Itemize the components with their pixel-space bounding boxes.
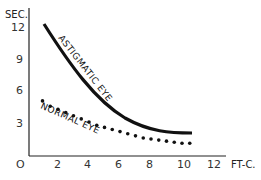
y-tick-9: 9 — [16, 53, 23, 66]
x-tick-12: 12 — [207, 158, 221, 171]
origin-label: O — [16, 158, 25, 171]
normal-eye-dot — [180, 141, 184, 145]
x-tick-6: 6 — [115, 158, 122, 171]
normal-eye-dot — [165, 139, 169, 143]
x-tick-10: 10 — [177, 158, 191, 171]
y-tick-3: 3 — [16, 117, 23, 130]
x-tick-2: 2 — [54, 158, 61, 171]
normal-eye-dot — [157, 138, 161, 142]
normal-eye-dot — [141, 136, 145, 140]
normal-eye-label: NORMAL EYE — [39, 101, 101, 136]
y-tick-6: 6 — [16, 84, 23, 97]
normal-eye-dots — [41, 99, 192, 145]
astigmatic-eye-label: ASTIGMATIC EYE — [56, 33, 114, 103]
y-axis-label: SEC. — [5, 9, 28, 20]
normal-eye-dot — [172, 140, 176, 144]
normal-eye-dot — [126, 132, 130, 136]
chart: SEC. 12 9 6 3 O 2 4 6 8 10 12 FT-C. ASTI… — [0, 0, 261, 180]
normal-eye-dot — [110, 128, 114, 132]
x-axis-label: FT-C. — [231, 159, 256, 170]
normal-eye-dot — [188, 141, 192, 145]
normal-eye-dot — [118, 130, 122, 134]
normal-eye-dot — [134, 134, 138, 138]
x-tick-8: 8 — [146, 158, 153, 171]
y-tick-12: 12 — [11, 21, 25, 34]
normal-eye-dot — [103, 126, 107, 130]
normal-eye-dot — [149, 137, 153, 141]
x-tick-4: 4 — [84, 158, 91, 171]
